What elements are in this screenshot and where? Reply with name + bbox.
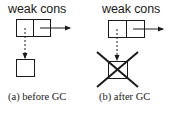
panel-after-gc: weak cons (b) after GC xyxy=(85,0,170,117)
referenced-object-box xyxy=(17,60,35,77)
caption-after-gc: (b) after GC xyxy=(99,91,150,102)
panel-before-gc: weak cons (a) before GC xyxy=(0,0,85,117)
caption-before-gc: (a) before GC xyxy=(8,91,66,102)
